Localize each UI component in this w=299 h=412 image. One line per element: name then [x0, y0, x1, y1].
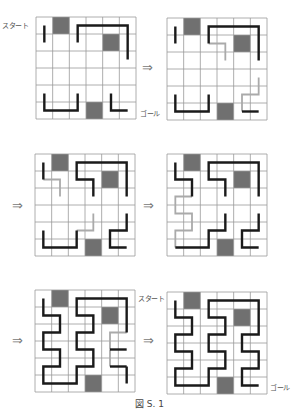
- blocked-cell: [52, 154, 69, 171]
- grid-svg-1: [36, 17, 136, 119]
- blocked-cell: [184, 292, 201, 309]
- blocked-cell: [217, 103, 234, 120]
- grid-svg-3: [35, 154, 135, 256]
- start-label: スタート: [2, 20, 28, 30]
- blocked-cell: [234, 35, 251, 52]
- goal-label: ゴール: [140, 108, 160, 118]
- blocked-cell: [85, 239, 102, 256]
- grid-svg-4: [167, 154, 267, 256]
- blocked-cell: [85, 375, 102, 392]
- blocked-cell: [234, 171, 251, 188]
- blocked-cell: [103, 34, 120, 51]
- blocked-cell: [102, 307, 119, 324]
- grid-panel-6: [167, 292, 267, 394]
- grid-panel-5: [35, 290, 135, 392]
- grid-panel-1: [36, 17, 136, 119]
- start-label: スタート: [138, 293, 164, 303]
- blocked-cell: [184, 154, 201, 171]
- grid-panel-4: [167, 154, 267, 256]
- arrow-icon: ⇒: [143, 199, 154, 212]
- blocked-cell: [102, 171, 119, 188]
- blocked-cell: [53, 17, 70, 34]
- grid-panel-2: [167, 18, 267, 120]
- arrow-icon: ⇒: [143, 334, 154, 347]
- arrow-icon: ⇒: [12, 199, 23, 212]
- blocked-cell: [217, 239, 234, 256]
- blocked-cell: [184, 18, 201, 35]
- figure-caption: 図 S. 1: [0, 397, 299, 410]
- blocked-cell: [217, 377, 234, 394]
- blocked-cell: [86, 102, 103, 119]
- goal-label: ゴール: [270, 382, 290, 392]
- grid-svg-5: [35, 290, 135, 392]
- grid-svg-2: [167, 18, 267, 120]
- arrow-icon: ⇒: [142, 61, 153, 74]
- arrow-icon: ⇒: [12, 334, 23, 347]
- grid-svg-6: [167, 292, 267, 394]
- grid-panel-3: [35, 154, 135, 256]
- blocked-cell: [234, 309, 251, 326]
- blocked-cell: [52, 290, 69, 307]
